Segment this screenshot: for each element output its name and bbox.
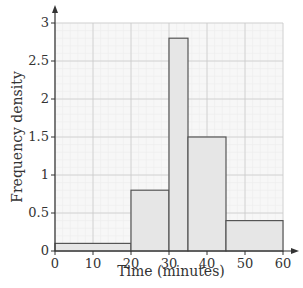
- histogram-bar: [226, 221, 283, 251]
- y-tick-label: 2: [41, 91, 49, 106]
- histogram-bar: [188, 137, 226, 251]
- y-tick-label: 0.5: [28, 205, 49, 220]
- x-tick-label: 50: [237, 256, 254, 271]
- x-axis-arrow-icon: [291, 248, 299, 254]
- y-tick-label: 0: [41, 243, 49, 258]
- x-axis-label: Time (minutes): [117, 263, 225, 279]
- histogram-bar: [131, 190, 169, 251]
- y-tick-label: 1.5: [28, 129, 49, 144]
- y-tick-label: 3: [41, 15, 49, 30]
- x-tick-label: 10: [85, 256, 102, 271]
- x-tick-label: 60: [275, 256, 292, 271]
- y-tick-label: 1: [41, 167, 49, 182]
- y-tick-label: 2.5: [28, 53, 49, 68]
- y-axis-arrow-icon: [52, 5, 58, 13]
- histogram-chart: 010203040506000.511.522.53Time (minutes)…: [0, 0, 303, 288]
- histogram-bar: [169, 38, 188, 251]
- y-axis-label: Frequency density: [9, 71, 25, 203]
- x-tick-label: 0: [51, 256, 59, 271]
- histogram-bar: [55, 243, 131, 251]
